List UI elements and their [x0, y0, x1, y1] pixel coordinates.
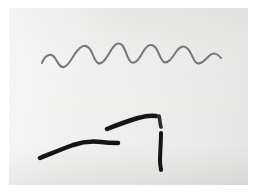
sine-wave-stroke — [42, 43, 221, 67]
vertical-stroke-lower-segment — [160, 133, 161, 170]
lower-left-stroke — [40, 142, 118, 158]
upper-right-diagonal-stroke — [107, 116, 156, 129]
photo-plate — [9, 8, 248, 185]
vertical-stroke-upper-segment — [159, 116, 161, 127]
ink-strokes-layer — [9, 8, 248, 185]
scan-figure — [0, 0, 256, 195]
